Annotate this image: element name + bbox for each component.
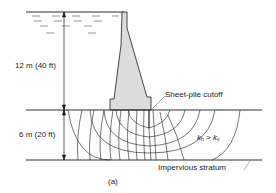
impervious-leader (244, 161, 250, 170)
dimension-lower (63, 110, 66, 160)
sheet-pile-leader (150, 96, 165, 111)
figure-caption: (a) (108, 178, 118, 186)
impervious-stratum-label: Impervious stratum (158, 164, 226, 172)
dam-body (110, 12, 151, 110)
water-hatch (32, 16, 119, 33)
sheet-pile-label: Sheet-pile cutoff (165, 91, 223, 99)
dam-seepage-diagram (0, 0, 276, 193)
dimension-upper (63, 12, 66, 110)
upper-height-label: 12 m (40 ft) (15, 62, 56, 70)
lower-depth-label: 6 m (20 ft) (19, 131, 55, 139)
permeability-label: kh > kv (197, 134, 219, 142)
